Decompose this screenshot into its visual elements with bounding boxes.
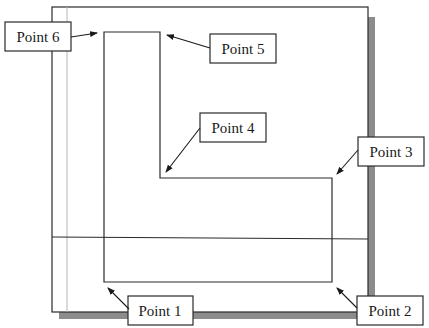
label-point-2: Point 2 <box>369 303 412 319</box>
l-shape-diagram: Point 6 Point 5 Point 4 Point 3 Point 1 … <box>0 0 429 328</box>
frame-shadow-right <box>368 17 375 319</box>
label-point-3: Point 3 <box>370 144 413 160</box>
label-point-6: Point 6 <box>17 29 60 45</box>
label-point-5: Point 5 <box>222 41 265 57</box>
label-point-4: Point 4 <box>212 120 255 136</box>
label-point-1: Point 1 <box>139 303 182 319</box>
frame-shadow-bottom <box>59 312 375 319</box>
